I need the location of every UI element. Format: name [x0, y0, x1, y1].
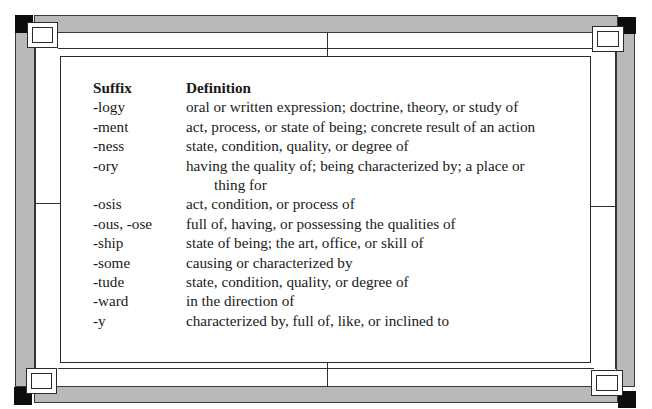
definition-cell: act, condition, or process of: [186, 194, 586, 213]
suffix-cell: -ship: [93, 233, 186, 252]
suffix-cell: -ous, -ose: [93, 214, 186, 233]
suffix-cell: -ness: [93, 136, 186, 155]
definition-cell: causing or characterized by: [186, 253, 586, 272]
definition-cell: state, condition, quality, or degree of: [186, 272, 586, 291]
suffix-cell: -some: [93, 253, 186, 272]
frame-bottom-bar: [34, 386, 618, 403]
frame-right-bar: [616, 32, 635, 387]
table-row: -logy oral or written expression; doctri…: [93, 97, 614, 116]
frame-inner-line-right: [615, 48, 616, 369]
definition-cell: in the direction of: [186, 291, 586, 310]
suffix-cell: -ment: [93, 117, 186, 136]
suffix-definition-table: Suffix Definition -logy oral or written …: [93, 78, 614, 330]
table-row: -tude state, condition, quality, or degr…: [93, 272, 614, 291]
table-row: -some causing or characterized by: [93, 253, 614, 272]
table-row: -ward in the direction of: [93, 291, 614, 310]
connector-left: [35, 203, 60, 204]
suffix-cell: -tude: [93, 272, 186, 291]
corner-box-bottom-right: [591, 370, 623, 396]
table-row: -ment act, process, or state of being; c…: [93, 117, 614, 136]
suffix-cell: -ory: [93, 156, 186, 175]
frame-inner-line-top: [58, 48, 594, 49]
table-header: Suffix Definition: [93, 78, 614, 97]
table-row: -ship state of being; the art, office, o…: [93, 233, 614, 252]
suffix-cell: -logy: [93, 97, 186, 116]
frame-inner-line-bottom: [58, 368, 594, 369]
suffix-cell: -osis: [93, 194, 186, 213]
table-row: -osis act, condition, or process of: [93, 194, 614, 213]
frame-left-bar: [15, 32, 35, 387]
definition-cell: state, condition, quality, or degree of: [186, 136, 586, 155]
definition-continuation: thing for: [186, 175, 614, 194]
definition-cell: oral or written expression; doctrine, th…: [186, 97, 586, 116]
table-row: -ory having the quality of; being charac…: [93, 156, 614, 175]
suffix-cell: -y: [93, 311, 186, 330]
corner-box-top-left: [27, 22, 58, 48]
frame-inner-line-left: [35, 48, 36, 369]
corner-box-bottom-left: [26, 368, 57, 394]
table-row: -y characterized by, full of, like, or i…: [93, 311, 614, 330]
header-definition: Definition: [186, 78, 586, 97]
definition-cell: characterized by, full of, like, or incl…: [186, 311, 586, 330]
frame-top-bar: [34, 15, 618, 33]
definition-cell: full of, having, or possessing the quali…: [186, 214, 586, 233]
connector-bottom: [327, 363, 328, 387]
suffix-cell: -ward: [93, 291, 186, 310]
table-row: -ness state, condition, quality, or degr…: [93, 136, 614, 155]
definition-cell: state of being; the art, office, or skil…: [186, 233, 586, 252]
table-row-continuation: thing for: [93, 175, 614, 194]
header-suffix: Suffix: [93, 78, 186, 97]
definition-cell: act, process, or state of being; concret…: [186, 117, 586, 136]
corner-box-top-right: [592, 26, 624, 52]
suffix-cell-empty: [93, 175, 186, 194]
definition-cell: having the quality of; being characteriz…: [186, 156, 586, 175]
connector-top: [327, 33, 328, 56]
table-row: -ous, -ose full of, having, or possessin…: [93, 214, 614, 233]
